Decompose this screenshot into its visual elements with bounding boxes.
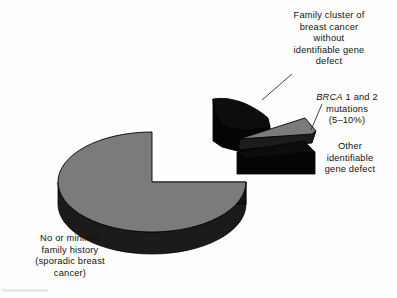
label-other-gene-defect: Other identifiable gene defect: [306, 141, 394, 176]
leader-line-family-cluster: [262, 74, 292, 100]
pie-chart-figure: Family cluster of breast cancer without …: [0, 0, 397, 298]
scan-artifact: [2, 289, 48, 292]
label-sporadic-breast-cancer: No or minimal family history (sporadic b…: [6, 233, 134, 279]
label-brca-mutations: BRCA 1 and 2 mutations (5–10%): [300, 92, 394, 127]
label-family-cluster: Family cluster of breast cancer without …: [268, 10, 390, 68]
label-brca-gene-name: BRCA: [316, 92, 343, 102]
pie-slice-sporadic-top: [58, 132, 246, 232]
